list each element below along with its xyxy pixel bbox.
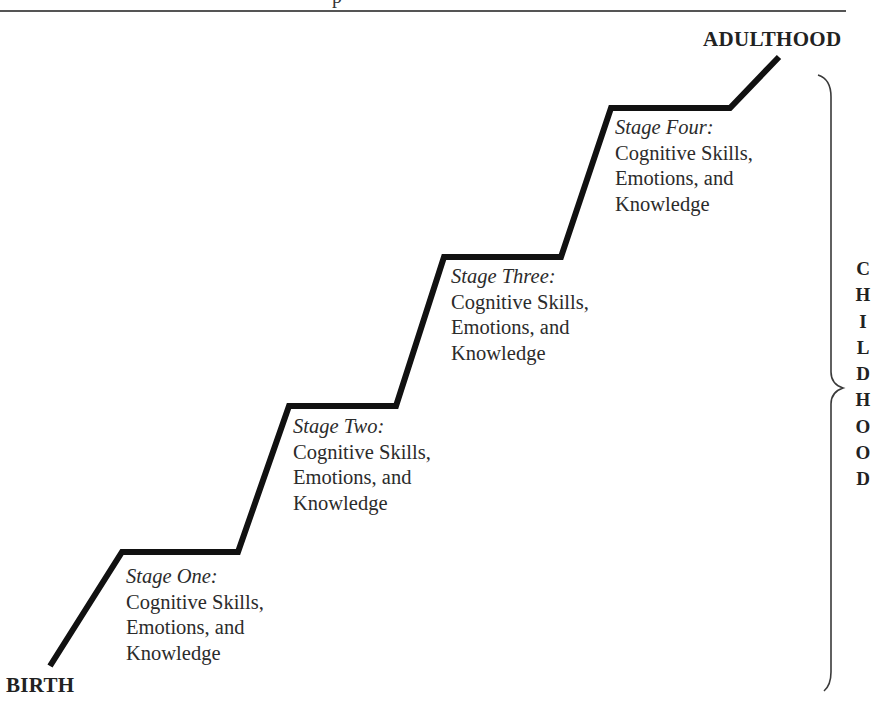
stage-one-title: Stage One:: [126, 564, 264, 590]
stage-four-line-2: Emotions, and: [615, 166, 753, 192]
stage-four-line-3: Knowledge: [615, 192, 753, 218]
stage-one-line-3: Knowledge: [126, 641, 264, 667]
stage-two-title: Stage Two:: [293, 414, 431, 440]
stage-two-label: Stage Two: Cognitive Skills, Emotions, a…: [293, 414, 431, 516]
childhood-letter: L: [852, 335, 874, 361]
stage-two-line-2: Emotions, and: [293, 465, 431, 491]
childhood-stages-diagram: p BIRTH ADULTHOOD Stage One: Cognitive S…: [0, 0, 880, 701]
stage-one-label: Stage One: Cognitive Skills, Emotions, a…: [126, 564, 264, 666]
childhood-letter: O: [852, 414, 874, 440]
childhood-letter: H: [852, 387, 874, 413]
childhood-letter: H: [852, 282, 874, 308]
childhood-letter: D: [852, 466, 874, 492]
adulthood-label: ADULTHOOD: [703, 29, 841, 50]
stage-three-line-2: Emotions, and: [451, 315, 589, 341]
birth-label: BIRTH: [6, 675, 74, 696]
stage-one-line-2: Emotions, and: [126, 615, 264, 641]
stage-four-line-1: Cognitive Skills,: [615, 141, 753, 167]
stage-two-line-3: Knowledge: [293, 491, 431, 517]
stage-three-line-3: Knowledge: [451, 341, 589, 367]
childhood-letter: C: [852, 256, 874, 282]
stage-three-line-1: Cognitive Skills,: [451, 290, 589, 316]
stage-three-label: Stage Three: Cognitive Skills, Emotions,…: [451, 264, 589, 366]
childhood-letter: I: [852, 309, 874, 335]
stage-one-line-1: Cognitive Skills,: [126, 590, 264, 616]
childhood-letter: O: [852, 440, 874, 466]
stage-three-title: Stage Three:: [451, 264, 589, 290]
stage-two-line-1: Cognitive Skills,: [293, 440, 431, 466]
childhood-letter: D: [852, 361, 874, 387]
stage-four-label: Stage Four: Cognitive Skills, Emotions, …: [615, 115, 753, 217]
childhood-vertical-label: C H I L D H O O D: [852, 256, 874, 493]
stage-four-title: Stage Four:: [615, 115, 753, 141]
childhood-brace: [818, 75, 843, 691]
